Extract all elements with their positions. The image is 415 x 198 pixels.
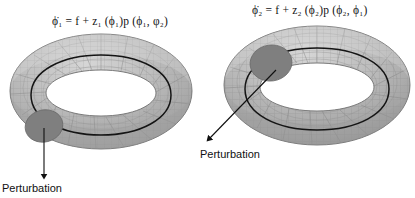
perturbation-label-left: Perturbation: [2, 182, 62, 194]
perturbation-label-right: Perturbation: [200, 148, 260, 160]
annotation-arrows: [0, 0, 415, 198]
figure-canvas: ϕ̇₁ = f + z₁ (ϕ₁)p (ϕ₁, φ₂) ϕ̇₂ = f + z₂…: [0, 0, 415, 198]
equation-right: ϕ̇₂ = f + z₂ (ϕ₂)p (ϕ₂, ϕ₁): [252, 4, 367, 16]
arrow-right-perturbation: [209, 70, 276, 139]
equation-left: ϕ̇₁ = f + z₁ (ϕ₁)p (ϕ₁, φ₂): [52, 15, 168, 27]
